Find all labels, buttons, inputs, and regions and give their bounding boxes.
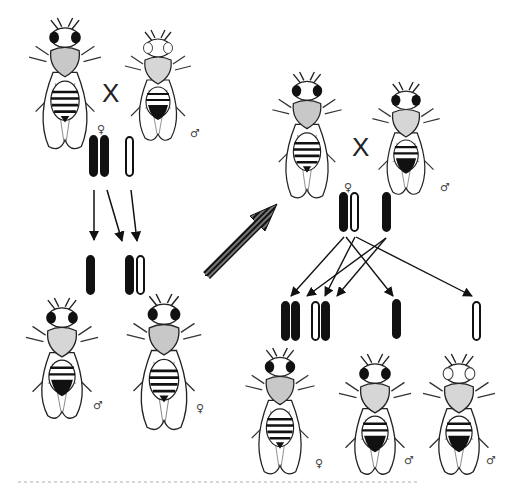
f2-white-male-symbol: ♂ <box>486 455 496 466</box>
f2-chromosome-h <box>472 301 481 341</box>
f2-chromosome-hf-2 <box>321 301 330 341</box>
scan-artifact-line <box>18 481 418 483</box>
f2-chromosome-ff-2 <box>291 301 300 341</box>
f2-chromosome-f <box>392 299 401 339</box>
f2-chromosome-ff-1 <box>281 301 290 341</box>
f2-red-male-symbol: ♂ <box>404 455 414 466</box>
f2-chromosome-hf-1 <box>311 301 320 341</box>
f2-female-fly <box>232 348 328 478</box>
f2-female-symbol: ♀ <box>315 458 323 469</box>
